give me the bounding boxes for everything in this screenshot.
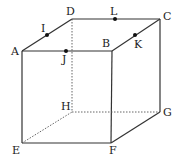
label-I: I — [41, 22, 45, 35]
edge-EH — [22, 112, 72, 143]
label-K: K — [134, 38, 143, 51]
edge-FG — [111, 112, 160, 143]
label-E: E — [12, 144, 20, 157]
label-F: F — [109, 144, 117, 157]
label-A: A — [10, 45, 20, 58]
point-I — [45, 33, 49, 37]
cube-diagram: A B C D E F G H I J K L — [0, 0, 178, 165]
label-D: D — [66, 5, 75, 18]
marked-points — [45, 17, 137, 53]
label-C: C — [163, 10, 171, 23]
edge-BF — [111, 51, 112, 143]
label-L: L — [110, 5, 118, 18]
label-G: G — [163, 106, 172, 119]
label-H: H — [61, 100, 71, 113]
label-J: J — [61, 53, 66, 66]
cube-svg: A B C D E F G H I J K L — [0, 0, 178, 165]
point-K — [133, 33, 137, 37]
label-B: B — [102, 37, 110, 50]
